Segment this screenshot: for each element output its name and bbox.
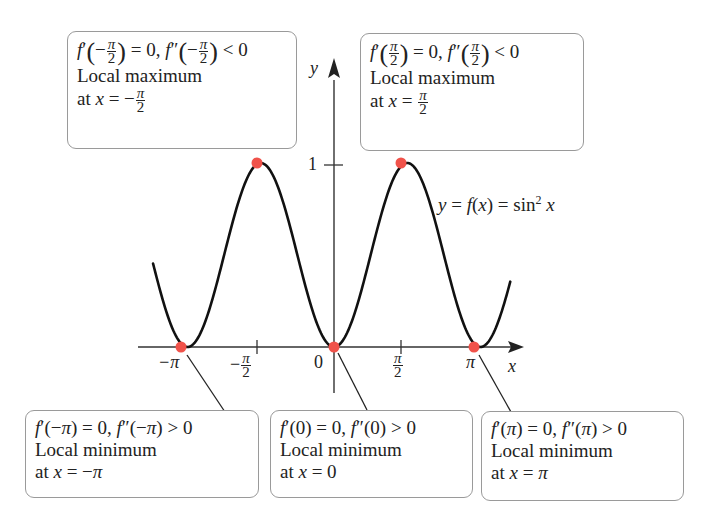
callout-min-center-kind: Local minimum [280, 439, 464, 461]
leader-line-min-center [338, 353, 367, 410]
y-tick-label-one: 1 [308, 154, 317, 175]
callout-max-right-location: at x = π2 [370, 89, 575, 116]
callout-min-center-derivative: f′(0) = 0, f″(0) > 0 [280, 417, 464, 439]
sine-squared-curve [153, 163, 510, 347]
max-point-half-pi [396, 158, 407, 169]
x-tick-label-neg-half-pi: −π2 [230, 352, 252, 379]
callout-min-center: f′(0) = 0, f″(0) > 0 Local minimum at x … [270, 410, 473, 498]
y-axis-label: y [310, 58, 318, 79]
callout-min-right-derivative: f′(π) = 0, f″(π) > 0 [491, 418, 675, 440]
x-tick-label-half-pi: π2 [392, 352, 404, 379]
callout-min-left: f′(−π) = 0, f″(−π) > 0 Local minimum at … [25, 410, 259, 498]
callout-min-right-location: at x = π [491, 462, 675, 484]
callout-min-right-kind: Local minimum [491, 440, 675, 462]
x-tick-label-neg-pi: −π [158, 352, 179, 373]
callout-max-left-derivative: f′(−π2) = 0, f″(−π2) < 0 [77, 38, 288, 65]
origin-label: 0 [314, 352, 323, 373]
callout-max-left: f′(−π2) = 0, f″(−π2) < 0 Local maximum a… [67, 31, 297, 149]
callout-min-right: f′(π) = 0, f″(π) > 0 Local minimum at x … [481, 411, 684, 501]
leader-line-min-left [187, 355, 225, 412]
callout-max-right-derivative: f′(π2) = 0, f″(π2) < 0 [370, 40, 575, 67]
max-point-neg-half-pi [252, 158, 263, 169]
leader-line-min-right [479, 355, 511, 412]
x-tick-label-pi: π [466, 352, 475, 373]
callout-min-left-location: at x = −π [35, 461, 250, 483]
callout-max-right-kind: Local maximum [370, 67, 575, 89]
callout-max-left-location: at x = −π2 [77, 87, 288, 114]
callout-min-left-derivative: f′(−π) = 0, f″(−π) > 0 [35, 417, 250, 439]
callout-min-left-kind: Local minimum [35, 439, 250, 461]
callout-max-left-kind: Local maximum [77, 65, 288, 87]
x-axis-label: x [508, 356, 516, 377]
min-point-neg-pi [176, 342, 187, 353]
curve-label: y = f(x) = sin2 x [438, 193, 555, 216]
min-point-zero [329, 342, 340, 353]
callout-min-center-location: at x = 0 [280, 461, 464, 483]
y-axis-arrow-icon [328, 58, 340, 78]
callout-max-right: f′(π2) = 0, f″(π2) < 0 Local maximum at … [360, 33, 584, 151]
min-point-pi [469, 342, 480, 353]
